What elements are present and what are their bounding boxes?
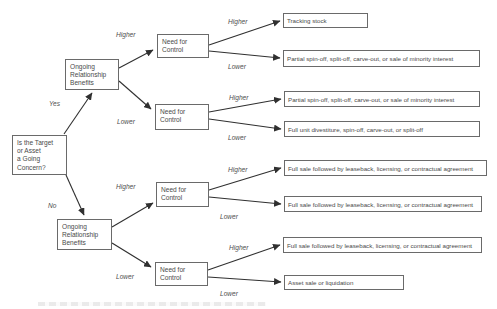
connector-nc3-out6 bbox=[209, 197, 281, 204]
connector-orb2-nc3 bbox=[112, 203, 153, 227]
connector-orb2-nc4 bbox=[112, 243, 151, 267]
edge-label-yes: Yes bbox=[49, 100, 60, 107]
connector-no bbox=[66, 175, 84, 215]
outcome-full-unit-divestiture: Full unit divestiture, spin-off, carve-o… bbox=[284, 121, 480, 137]
outcome-full-sale-leaseback-3: Full sale followed by leaseback, licensi… bbox=[283, 237, 482, 253]
outcome-partial-spinoff-1: Partial spin-off, split-off, carve-out, … bbox=[283, 50, 480, 67]
edge-label-higher-orb1: Higher bbox=[116, 31, 135, 38]
connector-lines bbox=[0, 0, 497, 309]
edge-label-lower-nc3: Lower bbox=[220, 213, 238, 220]
edge-label-lower-orb1: Lower bbox=[117, 118, 135, 125]
connector-nc4-out8 bbox=[208, 277, 281, 282]
relationship-benefits-lower-box: Ongoing Relationship Benefits bbox=[57, 219, 112, 250]
need-for-control-box-4: Need for Control bbox=[155, 262, 208, 286]
relationship-benefits-upper-box: Ongoing Relationship Benefits bbox=[65, 59, 119, 90]
edge-label-higher-nc1: Higher bbox=[228, 18, 247, 25]
need-for-control-box-2: Need for Control bbox=[155, 104, 209, 130]
edge-label-no: No bbox=[48, 202, 56, 209]
question-box: Is the Target or Asset a Going Concern? bbox=[12, 135, 67, 175]
edge-label-higher-nc2: Higher bbox=[229, 94, 248, 101]
edge-label-higher-nc3: Higher bbox=[228, 166, 247, 173]
edge-label-higher-nc4: Higher bbox=[229, 244, 248, 251]
connector-orb1-nc2 bbox=[119, 81, 151, 109]
outcome-partial-spinoff-2: Partial spin-off, split-off, carve-out, … bbox=[284, 91, 480, 107]
outcome-full-sale-leaseback-1: Full sale followed by leaseback, licensi… bbox=[284, 160, 487, 176]
outcome-tracking-stock: Tracking stock bbox=[283, 13, 368, 28]
edge-label-lower-orb2: Lower bbox=[116, 273, 134, 280]
need-for-control-box-3: Need for Control bbox=[156, 182, 209, 207]
edge-label-lower-nc2: Lower bbox=[228, 134, 246, 141]
connector-nc1-out2 bbox=[209, 51, 280, 58]
decision-tree-diagram: Is the Target or Asset a Going Concern? … bbox=[0, 0, 497, 309]
connector-nc2-out4 bbox=[209, 119, 281, 129]
need-for-control-box-1: Need for Control bbox=[157, 34, 209, 58]
outcome-full-sale-leaseback-2: Full sale followed by leaseback, licensi… bbox=[284, 196, 482, 212]
connector-yes bbox=[64, 93, 92, 134]
connector-orb1-nc1 bbox=[119, 50, 153, 68]
outcome-asset-sale-liquidation: Asset sale or liquidation bbox=[284, 275, 404, 290]
edge-label-lower-nc1: Lower bbox=[228, 63, 246, 70]
edge-label-higher-orb2: Higher bbox=[116, 183, 135, 190]
clipped-caption-remnant bbox=[38, 302, 266, 306]
edge-label-lower-nc4: Lower bbox=[220, 290, 238, 297]
